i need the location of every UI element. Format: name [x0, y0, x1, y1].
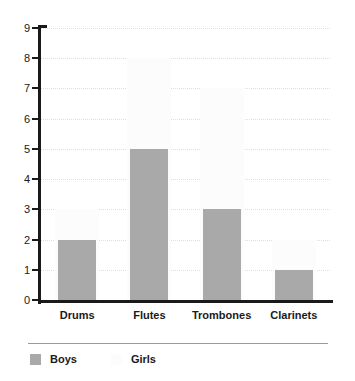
bar-boys	[275, 270, 313, 300]
legend-separator	[28, 343, 328, 344]
y-axis-tick-label: 9	[12, 23, 30, 34]
bar-boys	[203, 209, 241, 300]
y-axis-tick-label: 1	[12, 265, 30, 276]
legend-label: Boys	[50, 354, 77, 365]
y-axis-tick-mark	[32, 87, 39, 89]
y-axis-tick-label: 3	[12, 204, 30, 215]
y-axis-tick-mark	[32, 178, 39, 180]
y-axis-tick-label: 7	[12, 83, 30, 94]
bar-boys	[130, 149, 168, 300]
y-axis-tick-label: 5	[12, 144, 30, 155]
x-axis-category-label: Trombones	[186, 310, 258, 321]
plot-area	[40, 24, 330, 300]
x-axis-category-label: Clarinets	[258, 310, 330, 321]
y-axis-tick-mark	[32, 299, 39, 301]
x-axis-line	[38, 300, 333, 303]
x-axis-category-label: Flutes	[113, 310, 185, 321]
y-axis-tick-mark	[32, 269, 39, 271]
y-axis-tick-label: 0	[12, 295, 30, 306]
y-axis-tick-label: 4	[12, 174, 30, 185]
legend-label: Girls	[131, 354, 156, 365]
y-axis-tick-mark	[32, 208, 39, 210]
x-axis-category-label: Drums	[41, 310, 113, 321]
y-axis-tick-mark	[32, 148, 39, 150]
y-axis-tick-label: 8	[12, 53, 30, 64]
legend-swatch	[30, 354, 41, 365]
y-axis-tick-mark	[32, 57, 39, 59]
y-axis-top-cap	[38, 25, 47, 28]
y-axis-tick-mark	[32, 118, 39, 120]
y-axis-tick-label: 6	[12, 114, 30, 125]
legend-entry: Girls	[111, 354, 156, 365]
legend-swatch	[111, 354, 122, 365]
bar-boys	[58, 240, 96, 300]
y-axis-tick-mark	[32, 27, 39, 29]
chart-legend: BoysGirls	[30, 354, 190, 365]
y-axis-line	[38, 25, 41, 304]
bar-chart: 0123456789 DrumsFlutesTrombonesClarinets…	[0, 0, 355, 381]
y-axis-tick-mark	[32, 239, 39, 241]
legend-entry: Boys	[30, 354, 77, 365]
y-axis-tick-label: 2	[12, 235, 30, 246]
